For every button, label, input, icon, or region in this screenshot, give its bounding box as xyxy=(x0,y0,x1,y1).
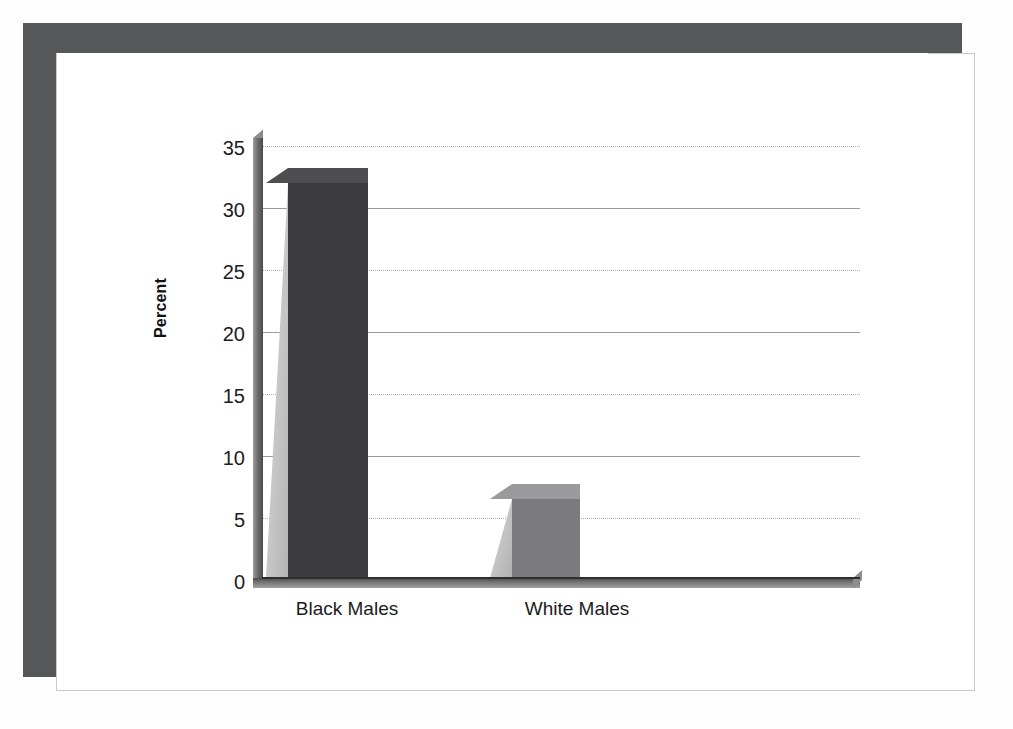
scanned-page: Percent 35 30 25 20 15 10 5 0 xyxy=(0,0,1013,729)
plot-floor xyxy=(253,578,860,588)
y-tick-label-20: 20 xyxy=(203,324,245,344)
y-tick-label-35: 35 xyxy=(203,138,245,158)
y-axis-tick-labels: 35 30 25 20 15 10 5 0 xyxy=(197,53,245,645)
x-tick-label-white-males: White Males xyxy=(437,598,717,620)
bar-black-males[interactable] xyxy=(288,183,368,578)
y-tick-label-0: 0 xyxy=(203,572,245,592)
y-tick-label-5: 5 xyxy=(203,510,245,530)
bar-front-face xyxy=(288,183,368,578)
y-tick-label-30: 30 xyxy=(203,200,245,220)
bar-chart: Percent 35 30 25 20 15 10 5 0 xyxy=(57,53,928,645)
y-axis-line xyxy=(262,138,263,578)
gridline-35 xyxy=(262,146,860,147)
y-tick-label-15: 15 xyxy=(203,386,245,406)
chart-canvas: Percent 35 30 25 20 15 10 5 0 xyxy=(57,53,928,645)
y-tick-label-25: 25 xyxy=(203,262,245,282)
y-tick-label-10: 10 xyxy=(203,448,245,468)
bar-front-face xyxy=(512,499,580,578)
y-axis-title: Percent xyxy=(152,278,170,338)
x-axis-baseline xyxy=(262,577,860,579)
bar-white-males[interactable] xyxy=(512,499,580,578)
